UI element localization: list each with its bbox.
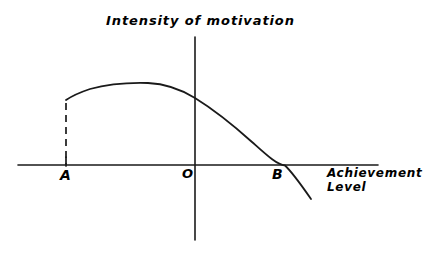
diagram-canvas bbox=[0, 0, 441, 266]
x-axis-label-line2: Level bbox=[327, 180, 366, 194]
point-a-label: A bbox=[60, 167, 71, 184]
x-axis-label: AchievementLevel bbox=[327, 166, 422, 194]
origin-label: O bbox=[182, 166, 194, 181]
x-axis-label-line1: Achievement bbox=[327, 166, 422, 180]
motivation-achievement-diagram: Intensity of motivation AchievementLevel… bbox=[0, 0, 441, 266]
point-b-label: B bbox=[272, 166, 283, 183]
chart-title: Intensity of motivation bbox=[106, 13, 295, 28]
